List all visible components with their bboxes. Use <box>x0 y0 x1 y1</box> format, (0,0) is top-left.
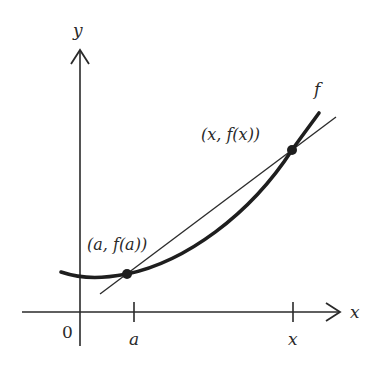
origin-label: 0 <box>62 322 73 342</box>
point-x <box>287 145 297 155</box>
function-label: f <box>312 79 323 99</box>
tick-a-label: a <box>129 329 139 349</box>
y-axis-label: y <box>72 20 83 40</box>
point-a-label: (a, f(a)) <box>87 235 147 254</box>
y-axis <box>71 50 89 346</box>
point-x-label: (x, f(x)) <box>201 125 260 144</box>
x-axis-label: x <box>350 302 360 322</box>
secant-diagram: y x 0 a x f (a, f(a)) (x, f(x)) <box>0 0 376 388</box>
point-a <box>122 269 132 279</box>
tick-x-label: x <box>288 329 298 349</box>
